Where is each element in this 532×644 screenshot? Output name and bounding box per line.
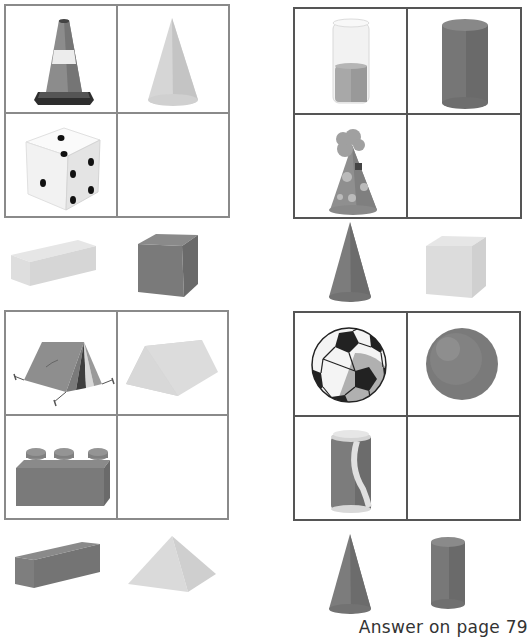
- soccer-ball-icon: [295, 313, 406, 415]
- option-cuboid-dark[interactable]: [12, 540, 104, 590]
- option-cone-dark[interactable]: [326, 220, 374, 306]
- toy-brick-icon: [6, 416, 116, 518]
- cell-empty-answer[interactable]: [408, 417, 521, 519]
- option-cuboid-light[interactable]: [8, 238, 100, 288]
- party-hat-icon: [295, 115, 406, 217]
- cylinder-icon: [408, 9, 522, 113]
- cell-empty-answer[interactable]: [408, 115, 522, 217]
- glass-icon: [295, 9, 406, 113]
- puzzle-2-grid: [293, 7, 522, 219]
- soda-can-icon: [295, 417, 406, 519]
- option-cube-dark[interactable]: [136, 232, 202, 300]
- cell-soccer-ball: [295, 313, 406, 415]
- cell-cone: [118, 6, 230, 112]
- puzzle-1-grid: [4, 4, 230, 218]
- cell-empty-answer[interactable]: [118, 114, 230, 218]
- option-cone-dark[interactable]: [326, 532, 374, 618]
- cell-sphere: [408, 313, 521, 415]
- cone-icon: [118, 6, 230, 112]
- option-cube-light[interactable]: [424, 234, 490, 302]
- cell-toy-brick: [6, 416, 116, 518]
- cuboid-icon: [8, 238, 100, 288]
- cube-icon: [136, 232, 202, 300]
- cone-icon: [326, 220, 374, 306]
- cell-traffic-cone: [6, 6, 116, 112]
- cell-triangular-prism: [118, 312, 229, 414]
- cell-tent: [6, 312, 116, 414]
- answer-page-reference: Answer on page 79: [359, 617, 528, 637]
- sphere-icon: [408, 313, 521, 415]
- cell-empty-answer[interactable]: [118, 416, 229, 518]
- tent-icon: [6, 312, 116, 414]
- triangular-prism-icon: [118, 312, 229, 414]
- cylinder-icon: [428, 536, 468, 612]
- option-cylinder-dark[interactable]: [428, 536, 468, 612]
- die-icon: [6, 114, 116, 218]
- puzzle-3-grid: [4, 310, 229, 520]
- cone-icon: [326, 532, 374, 618]
- cell-glass-of-liquid: [295, 9, 406, 113]
- cell-cylinder: [408, 9, 522, 113]
- square-pyramid-icon: [126, 534, 218, 596]
- cube-icon: [424, 234, 490, 302]
- cell-party-hat: [295, 115, 406, 217]
- cell-die: [6, 114, 116, 218]
- traffic-cone-icon: [6, 6, 116, 112]
- cuboid-icon: [12, 540, 104, 590]
- puzzle-4-grid: [293, 311, 521, 521]
- cell-soda-can: [295, 417, 406, 519]
- option-square-pyramid-light[interactable]: [126, 534, 218, 596]
